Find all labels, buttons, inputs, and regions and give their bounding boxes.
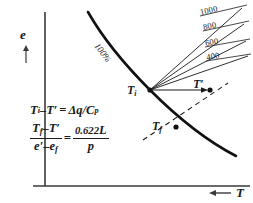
eq2-right-numerator: 0.622L <box>73 124 109 140</box>
eq1-t2: T <box>46 103 54 118</box>
eq2-den-e2-sub: f <box>55 146 58 155</box>
eq2-equals: = <box>62 131 73 146</box>
x-axis-label: T <box>236 186 244 199</box>
eq2-left-fraction: Tf–T′ e′–ef <box>30 122 62 155</box>
eq1-cp-sub: p <box>94 106 98 115</box>
point-tf-marker <box>173 124 178 129</box>
point-label-tf: Tf <box>152 120 162 134</box>
figure-canvas <box>0 0 253 203</box>
equation-block: Ti – T′ = Δq / Cp Tf–T′ e′–ef = 0.622L <box>30 103 109 155</box>
eq2-num-t2-prime: ′ <box>56 121 60 135</box>
eq1-delta-q: Δq <box>68 103 82 118</box>
y-axis-label: e <box>20 28 26 41</box>
point-tprime-marker <box>207 87 212 92</box>
eq2-right-denominator: p <box>86 139 96 154</box>
equation-2: Tf–T′ e′–ef = 0.622L p <box>30 122 109 155</box>
point-label-ti: Ti <box>127 84 137 98</box>
eq2-right-fraction: 0.622L p <box>73 124 109 154</box>
eq1-equals: = <box>57 103 68 118</box>
fan-label-600: 600 <box>205 37 220 48</box>
y-axis-arrow <box>23 45 29 63</box>
eq2-left-numerator: Tf–T′ <box>30 122 62 139</box>
fan-label-400: 400 <box>206 51 221 61</box>
eq2-left-denominator: e′–ef <box>32 139 60 155</box>
eq2-rhs-const: 0.622 <box>75 124 99 136</box>
point-tprime-prime: ′ <box>200 77 203 91</box>
point-ti-sub: i <box>134 89 136 98</box>
eq2-num-t1: T <box>32 121 40 135</box>
eq1-t1: T <box>30 103 38 118</box>
psychrometric-figure: e T 100% 1000 800 600 400 Ti Tf T′ Ti – … <box>0 0 253 203</box>
eq2-rhs-l: L <box>99 123 107 137</box>
x-axis-arrow <box>209 190 231 196</box>
equation-1: Ti – T′ = Δq / Cp <box>30 103 109 118</box>
point-label-tprime: T′ <box>193 78 204 90</box>
point-tf-sub: f <box>159 125 162 134</box>
point-ti-marker <box>147 87 152 92</box>
